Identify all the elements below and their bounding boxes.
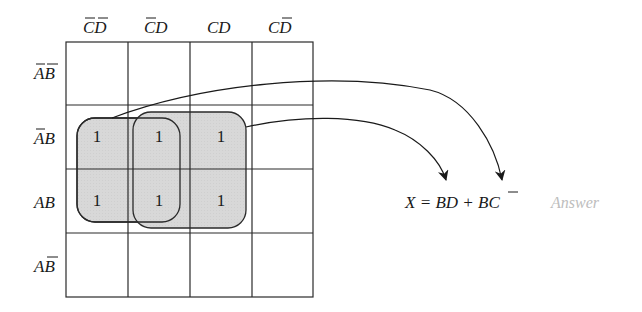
row-header-abar-b: AB (33, 129, 55, 148)
cell-r2-c0: 1 (93, 191, 102, 210)
arrow-bd-to-term (246, 118, 446, 180)
cell-r1-c2: 1 (217, 127, 226, 146)
row-header-a-b: AB (33, 193, 55, 212)
kmap-grid (66, 42, 313, 297)
col-header-c-d: CD (207, 18, 231, 37)
col-header-cbar-dbar: CD (83, 18, 107, 37)
cell-r1-c0: 1 (93, 127, 102, 146)
result-equation: X = BD + BC Answer (404, 192, 600, 212)
cell-r2-c2: 1 (217, 191, 226, 210)
karnaugh-map-diagram: CD CD CD CD AB AB AB AB 1 1 1 1 1 1 X = … (0, 0, 642, 312)
row-headers: AB AB AB AB (33, 64, 58, 276)
equation-text: X = BD + BC (404, 193, 500, 212)
col-header-cbar-d: CD (144, 18, 168, 37)
col-header-c-dbar: CD (268, 18, 292, 37)
cell-r2-c1: 1 (155, 191, 164, 210)
column-headers: CD CD CD CD (83, 18, 292, 37)
answer-label: Answer (550, 194, 600, 211)
cell-r1-c1: 1 (155, 127, 164, 146)
row-header-a-bbar: AB (33, 257, 55, 276)
row-header-abar-bbar: AB (33, 64, 55, 83)
